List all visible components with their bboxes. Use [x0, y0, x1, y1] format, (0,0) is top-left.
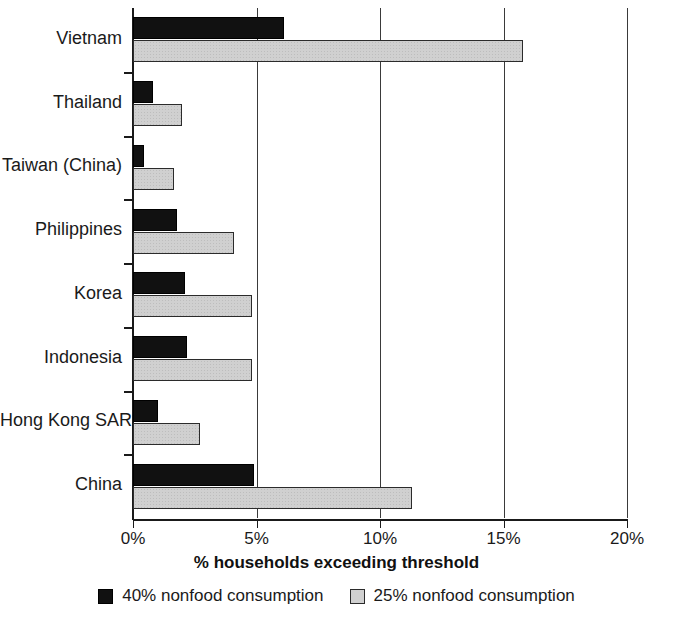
bar [133, 400, 158, 422]
bar [133, 295, 252, 317]
x-axis-tick-label: 10% [363, 529, 397, 549]
x-axis-tick-label: 0% [121, 529, 146, 549]
bar [133, 487, 412, 509]
legend-item-label: 25% nonfood consumption [374, 586, 575, 606]
y-axis-tick [124, 391, 133, 393]
bar-chart: 0%5%10%15%20% VietnamThailandTaiwan (Chi… [0, 0, 673, 625]
category-label: Philippines [0, 219, 122, 240]
y-axis-tick [124, 136, 133, 138]
bar [133, 168, 174, 190]
x-axis-tick [504, 519, 505, 528]
plot-area [133, 8, 627, 518]
x-axis-tick [627, 519, 628, 528]
y-axis-tick [124, 327, 133, 329]
bar [133, 423, 200, 445]
bar [133, 40, 523, 62]
y-axis-tick [124, 199, 133, 201]
bar [133, 336, 187, 358]
legend-item-label: 40% nonfood consumption [122, 586, 323, 606]
bar [133, 359, 252, 381]
black-square-swatch [98, 589, 113, 604]
x-axis-tick-label: 15% [486, 529, 520, 549]
bar [133, 145, 144, 167]
bar [133, 17, 284, 39]
bar [133, 272, 185, 294]
category-label: Thailand [0, 92, 122, 113]
bar [133, 209, 177, 231]
x-axis-tick [380, 519, 381, 528]
category-label: Vietnam [0, 28, 122, 49]
y-axis-tick [124, 72, 133, 74]
y-axis-tick [124, 263, 133, 265]
x-axis-tick [133, 519, 134, 528]
x-axis-tick [257, 519, 258, 528]
bar [133, 104, 182, 126]
category-label: China [0, 474, 122, 495]
bar [133, 232, 234, 254]
gridline [627, 8, 628, 518]
chart-legend: 40% nonfood consumption25% nonfood consu… [0, 586, 673, 606]
bar [133, 464, 254, 486]
category-label: Indonesia [0, 347, 122, 368]
x-axis-tick-label: 20% [610, 529, 644, 549]
category-label: Korea [0, 283, 122, 304]
y-axis-tick [124, 454, 133, 456]
category-label: Taiwan (China) [0, 155, 122, 176]
legend-item[interactable]: 25% nonfood consumption [350, 586, 575, 606]
x-axis-tick-label: 5% [244, 529, 269, 549]
bar [133, 81, 153, 103]
category-label: Hong Kong SAR [0, 410, 122, 431]
gray-square-swatch [350, 589, 365, 604]
legend-item[interactable]: 40% nonfood consumption [98, 586, 323, 606]
x-axis-title: % households exceeding threshold [0, 553, 673, 573]
